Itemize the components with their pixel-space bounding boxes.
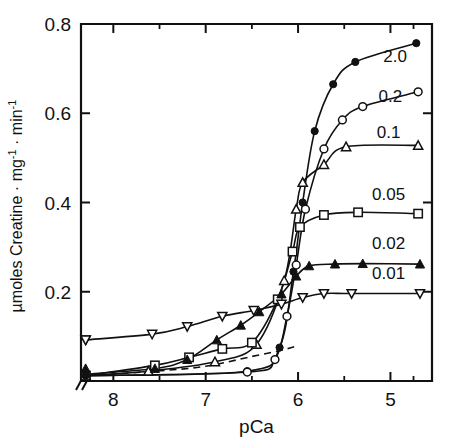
marker-open-circle <box>339 116 347 124</box>
marker-open-triangle-up <box>280 276 289 285</box>
y-tick-label: 0.4 <box>45 193 72 214</box>
marker-open-circle <box>359 103 367 111</box>
y-tick-label: 0.8 <box>45 14 71 35</box>
marker-open-triangle-up <box>292 205 301 214</box>
pca-activation-chart: 87650.20.40.60.8 2.00.20.10.050.020.01 p… <box>0 0 470 448</box>
marker-filled-triangle-up <box>236 321 245 330</box>
axes-frame <box>76 24 432 390</box>
marker-open-square <box>296 223 304 231</box>
marker-filled-circle <box>82 372 89 379</box>
marker-open-square <box>218 345 226 353</box>
curve-label-0.01: 0.01 <box>372 264 405 283</box>
marker-open-circle <box>271 356 279 364</box>
curve-label-0.1: 0.1 <box>377 123 401 142</box>
marker-filled-circle <box>352 58 359 65</box>
curve-0.02 <box>86 264 420 375</box>
data-markers <box>81 40 425 380</box>
curve-label-0.02: 0.02 <box>372 234 405 253</box>
marker-open-circle <box>243 368 251 376</box>
marker-open-circle <box>283 312 291 320</box>
marker-open-circle <box>414 88 422 96</box>
marker-open-circle <box>302 205 310 213</box>
x-tick-label: 6 <box>293 389 304 410</box>
marker-filled-circle <box>413 40 420 47</box>
marker-filled-circle <box>276 344 283 351</box>
marker-filled-triangle-up <box>212 335 221 344</box>
curve-label-0.2: 0.2 <box>379 87 403 106</box>
curve-2.0 <box>86 43 417 375</box>
marker-open-square <box>354 208 362 216</box>
curve-label-2.0: 2.0 <box>383 47 407 66</box>
x-axis-label: pCa <box>239 416 274 437</box>
x-tick-label: 5 <box>385 389 396 410</box>
curve-0.2 <box>86 92 419 376</box>
y-tick-label: 0.2 <box>45 282 71 303</box>
y-axis-label: µmoles Creatine · mg-1 · min-1 <box>6 100 25 313</box>
y-tick-label: 0.6 <box>45 103 71 124</box>
marker-open-circle <box>320 145 328 153</box>
marker-open-square <box>320 211 328 219</box>
marker-open-square <box>414 209 422 217</box>
marker-open-square <box>288 247 296 255</box>
marker-open-circle <box>292 261 300 269</box>
data-curves <box>86 43 420 375</box>
x-tick-label: 8 <box>108 389 119 410</box>
marker-filled-circle <box>330 81 337 88</box>
marker-filled-triangle-up <box>81 364 90 373</box>
marker-filled-circle <box>311 128 318 135</box>
figure-container: 87650.20.40.60.8 2.00.20.10.050.020.01 p… <box>0 0 470 448</box>
curve-label-0.05: 0.05 <box>372 185 405 204</box>
x-tick-label: 7 <box>200 389 211 410</box>
marker-open-square <box>248 338 256 346</box>
curve-labels: 2.00.20.10.050.020.01 <box>372 47 407 283</box>
